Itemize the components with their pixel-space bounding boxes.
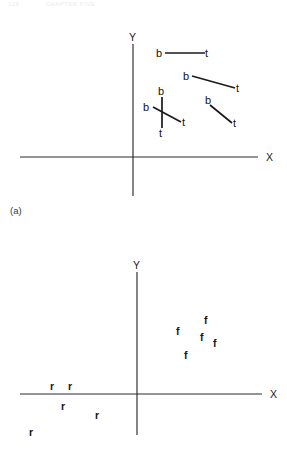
segment-2-line [192,76,235,88]
segment-2-t-label: t [236,82,239,94]
marker-r-3: r [61,400,65,412]
y-axis-label: Y [129,31,136,43]
marker-f-4: f [213,337,217,349]
figure-panel-a: X Y b t b t b t b t b t (a) [0,0,287,232]
marker-f-1: f [176,325,180,337]
marker-f-5: f [184,349,188,361]
marker-f-3: f [200,331,204,343]
segment-5-line [210,105,232,123]
segment-1-t-label: t [205,47,208,59]
segment-4-line [153,107,181,122]
marker-r-2: r [68,380,72,392]
segment-2-b-label: b [183,70,189,82]
marker-f-2: f [204,314,208,326]
panel-a-caption: (a) [10,205,22,216]
segment-4-b-label: b [143,101,149,113]
marker-r-5: r [29,426,33,438]
segment-4-t-label: t [182,116,185,128]
segment-1-b-label: b [156,47,162,59]
y-axis-label: Y [133,259,140,271]
figure-panel-b: X Y f f f f f r r r r r (b) [0,250,287,473]
marker-r-4: r [95,409,99,421]
segment-3-b-label: b [158,85,164,97]
segment-5-t-label: t [233,117,236,129]
panel-a-plot: X Y b t b t b t b t b t [0,0,287,232]
segment-3-t-label: t [159,127,162,139]
x-axis-label: X [270,388,277,400]
marker-r-1: r [50,380,54,392]
segment-5-b-label: b [205,94,211,106]
x-axis-label: X [266,151,273,163]
panel-b-plot-content: X Y f f f f f r r r r r [0,250,287,473]
